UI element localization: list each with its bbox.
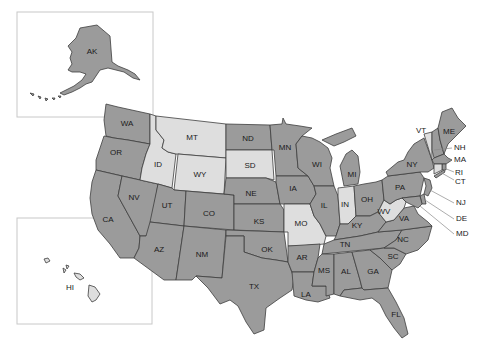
us-map: AK HI WA OR CA NV ID MT WY UT AZ CO NM N… bbox=[0, 0, 482, 344]
label-CO: CO bbox=[203, 209, 215, 218]
label-ND: ND bbox=[242, 134, 254, 143]
label-LA: LA bbox=[301, 290, 311, 299]
label-MI: MI bbox=[348, 170, 357, 179]
state-NJ[interactable] bbox=[424, 178, 432, 196]
label-NC: NC bbox=[397, 235, 409, 244]
label-VA: VA bbox=[399, 214, 410, 223]
label-AR: AR bbox=[296, 253, 307, 262]
label-RI: RI bbox=[455, 168, 463, 177]
label-OH: OH bbox=[361, 195, 373, 204]
label-SD: SD bbox=[244, 161, 255, 170]
label-WV: WV bbox=[378, 207, 392, 216]
label-CA: CA bbox=[102, 215, 114, 224]
label-VT: VT bbox=[416, 126, 426, 135]
label-CT: CT bbox=[455, 177, 466, 186]
label-GA: GA bbox=[367, 267, 379, 276]
label-MS: MS bbox=[318, 266, 330, 275]
label-WI: WI bbox=[312, 160, 322, 169]
label-HI: HI bbox=[66, 283, 74, 292]
label-KY: KY bbox=[352, 221, 363, 230]
label-WY: WY bbox=[194, 170, 208, 179]
state-HI[interactable] bbox=[88, 285, 100, 302]
label-NV: NV bbox=[128, 193, 140, 202]
label-MN: MN bbox=[279, 143, 292, 152]
label-FL: FL bbox=[391, 310, 401, 319]
label-SC: SC bbox=[387, 252, 398, 261]
label-UT: UT bbox=[162, 201, 173, 210]
label-KS: KS bbox=[254, 217, 265, 226]
label-MA: MA bbox=[454, 155, 467, 164]
label-DE: DE bbox=[456, 214, 467, 223]
label-AK: AK bbox=[87, 47, 98, 56]
label-ID: ID bbox=[154, 160, 162, 169]
label-OR: OR bbox=[110, 148, 122, 157]
state-RI[interactable] bbox=[442, 164, 446, 170]
label-MO: MO bbox=[295, 219, 308, 228]
state-AK[interactable] bbox=[60, 25, 140, 95]
label-OK: OK bbox=[261, 245, 273, 254]
label-AL: AL bbox=[341, 267, 351, 276]
label-AZ: AZ bbox=[154, 245, 164, 254]
label-NM: NM bbox=[196, 250, 209, 259]
label-IL: IL bbox=[321, 201, 328, 210]
label-NH: NH bbox=[454, 143, 466, 152]
label-TN: TN bbox=[340, 240, 351, 249]
label-PA: PA bbox=[395, 183, 406, 192]
label-NJ: NJ bbox=[456, 198, 466, 207]
label-ME: ME bbox=[443, 127, 455, 136]
label-IN: IN bbox=[341, 200, 349, 209]
label-WA: WA bbox=[121, 119, 134, 128]
label-TX: TX bbox=[249, 282, 260, 291]
label-NE: NE bbox=[245, 189, 256, 198]
label-IA: IA bbox=[289, 184, 297, 193]
label-MT: MT bbox=[186, 133, 198, 142]
label-MD: MD bbox=[456, 229, 469, 238]
label-NY: NY bbox=[406, 160, 418, 169]
